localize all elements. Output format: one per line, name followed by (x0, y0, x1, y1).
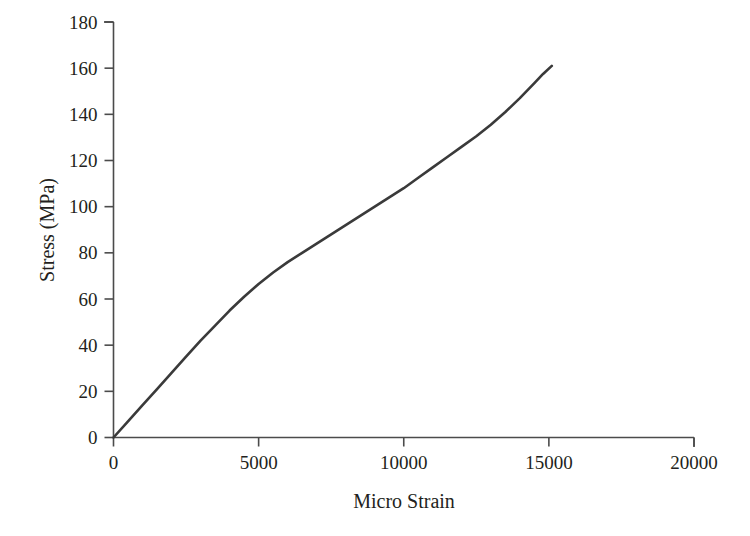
y-tick-label: 120 (69, 150, 98, 171)
x-axis-ticks (114, 438, 695, 447)
y-tick-label: 160 (69, 58, 98, 79)
y-tick-label: 100 (69, 196, 98, 217)
y-axis-title: Stress (MPa) (36, 178, 59, 282)
y-tick-label: 0 (88, 427, 98, 448)
x-tick-label: 5000 (240, 452, 278, 473)
y-tick-label: 60 (79, 289, 98, 310)
x-tick-label: 15000 (525, 452, 573, 473)
x-tick-label: 20000 (670, 452, 718, 473)
y-tick-label: 80 (79, 242, 98, 263)
x-tick-label: 0 (109, 452, 119, 473)
x-axis-title: Micro Strain (353, 490, 455, 512)
y-tick-label: 20 (79, 381, 98, 402)
stress-strain-chart: 020406080100120140160180 050001000015000… (0, 0, 750, 536)
chart-page: 020406080100120140160180 050001000015000… (0, 0, 750, 536)
x-axis-tick-labels: 05000100001500020000 (109, 452, 718, 473)
y-tick-label: 140 (69, 104, 98, 125)
x-tick-label: 10000 (380, 452, 428, 473)
y-tick-label: 180 (69, 12, 98, 33)
y-axis-ticks (105, 22, 114, 438)
axis-lines (104, 22, 694, 447)
y-axis-tick-labels: 020406080100120140160180 (69, 12, 98, 449)
data-series-line (114, 66, 552, 438)
y-tick-label: 40 (79, 335, 98, 356)
